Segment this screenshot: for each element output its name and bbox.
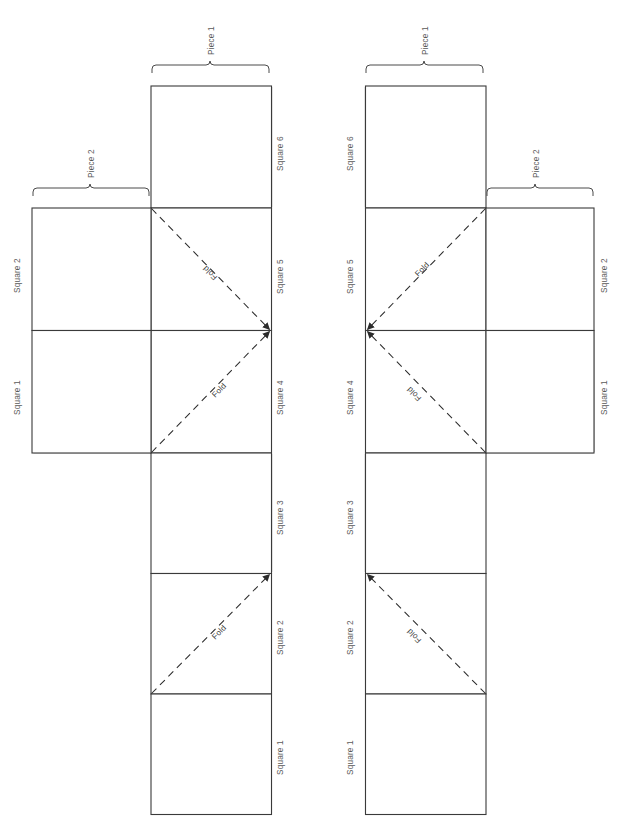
right-square-4-label: Square 4 <box>346 380 355 415</box>
right-square-1-label: Square 1 <box>346 740 355 775</box>
left-square-5-label: Square 5 <box>276 259 285 294</box>
right-square-3-label: Square 3 <box>346 500 355 535</box>
cube-nets-svg: Piece 1 Piece 2 Square 6 Square 5 Square… <box>0 0 632 830</box>
right-piece-2-label: Piece 2 <box>532 149 541 178</box>
right-piece-1-label: Piece 1 <box>421 26 430 55</box>
left-square-2-label: Square 2 <box>276 620 285 655</box>
left-square-6-label: Square 6 <box>276 136 285 171</box>
left-side-square-2-label: Square 2 <box>13 258 22 293</box>
left-net-faces <box>32 86 272 815</box>
left-piece-2-label: Piece 2 <box>87 149 96 178</box>
right-side-square-1-label: Square 1 <box>600 380 609 415</box>
diagram-canvas: Piece 1 Piece 2 Square 6 Square 5 Square… <box>0 0 632 830</box>
right-square-2-label: Square 2 <box>346 620 355 655</box>
left-side-square-1-label: Square 1 <box>13 380 22 415</box>
left-square-3-label: Square 3 <box>276 500 285 535</box>
right-net-faces <box>366 86 595 815</box>
left-cube-net: Piece 1 Piece 2 Square 6 Square 5 Square… <box>13 26 285 814</box>
left-square-1-label: Square 1 <box>276 740 285 775</box>
right-square-6-label: Square 6 <box>346 136 355 171</box>
right-square-5-label: Square 5 <box>346 259 355 294</box>
left-piece-1-label: Piece 1 <box>207 26 216 55</box>
right-side-square-2-label: Square 2 <box>600 258 609 293</box>
right-cube-net: Piece 1 Piece 2 Square 6 Square 5 Square… <box>346 26 609 814</box>
left-square-4-label: Square 4 <box>276 380 285 415</box>
